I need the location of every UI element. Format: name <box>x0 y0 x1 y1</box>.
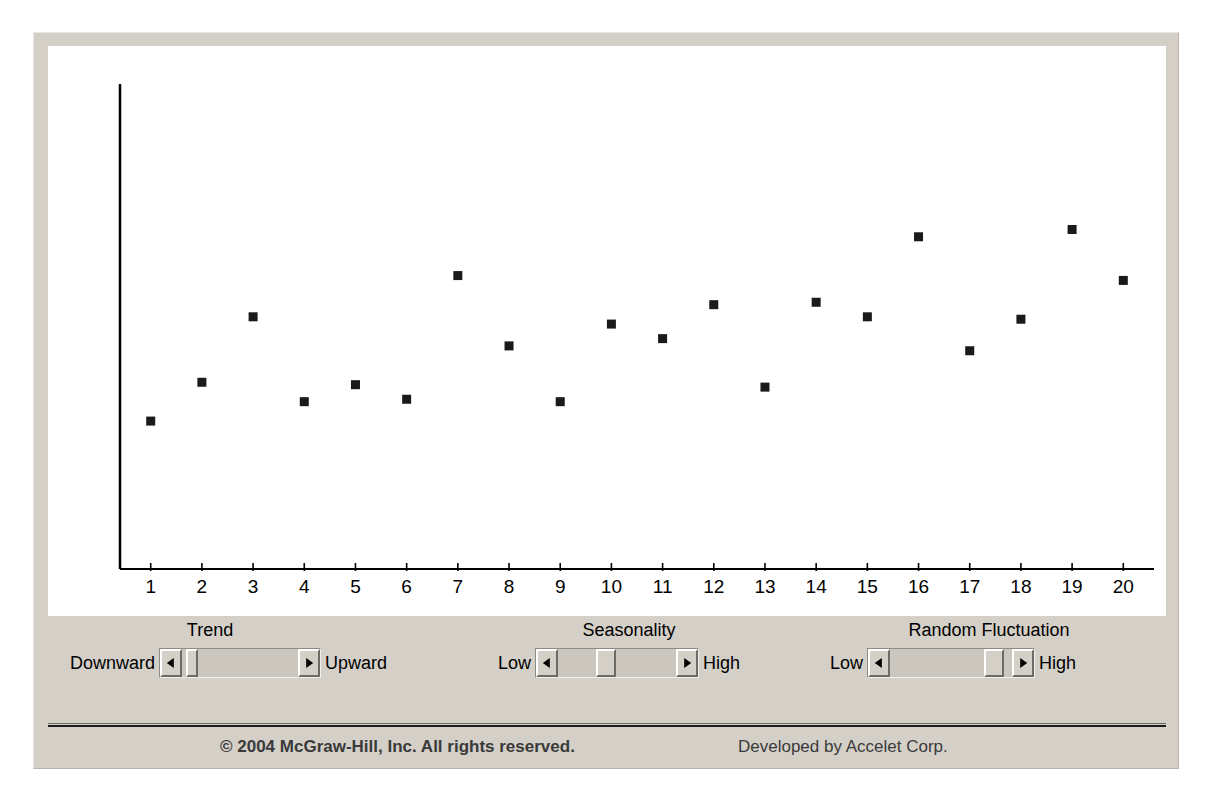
slider-row-random-fluctuation: Low High <box>830 648 1076 678</box>
x-tick-label: 6 <box>401 576 412 597</box>
slider-thumb-trend[interactable] <box>186 649 198 677</box>
slider-group-trend: Trend Downward Upward <box>70 616 460 688</box>
data-point-marker <box>709 300 718 309</box>
slider-title-random-fluctuation: Random Fluctuation <box>866 620 1112 641</box>
x-tick-label: 16 <box>908 576 929 597</box>
slider-track-random-fluctuation[interactable] <box>890 649 1012 677</box>
slider-group-seasonality: Seasonality Low High <box>498 616 758 688</box>
data-point-marker <box>658 334 667 343</box>
slider-trend[interactable] <box>159 648 321 678</box>
data-point-marker <box>607 320 616 329</box>
data-point-marker <box>965 346 974 355</box>
x-tick-label: 12 <box>703 576 724 597</box>
footer-copyright: © 2004 McGraw-Hill, Inc. All rights rese… <box>220 737 575 757</box>
slider-left-label-trend: Downward <box>70 654 155 672</box>
slider-right-label-seasonality: High <box>703 654 740 672</box>
applet-frame: 1234567891011121314151617181920 Trend Do… <box>33 32 1179 769</box>
triangle-left-icon-seasonality[interactable] <box>536 649 558 677</box>
triangle-right-icon-seasonality[interactable] <box>676 649 698 677</box>
x-tick-label: 8 <box>504 576 515 597</box>
x-tick-label: 3 <box>248 576 259 597</box>
x-tick-label: 17 <box>959 576 980 597</box>
triangle-left-icon-random-fluctuation[interactable] <box>868 649 890 677</box>
data-point-marker <box>300 397 309 406</box>
data-point-marker <box>556 397 565 406</box>
data-point-marker <box>1068 225 1077 234</box>
x-tick-label: 2 <box>197 576 208 597</box>
data-point-marker <box>146 417 155 426</box>
slider-random-fluctuation[interactable] <box>867 648 1035 678</box>
data-point-marker <box>402 395 411 404</box>
slider-thumb-random-fluctuation[interactable] <box>984 649 1004 677</box>
x-tick-label: 4 <box>299 576 310 597</box>
x-tick-label: 11 <box>653 576 673 597</box>
chart-data-points <box>146 225 1128 426</box>
footer-credit: Developed by Accelet Corp. <box>738 737 948 757</box>
data-point-marker <box>1016 315 1025 324</box>
x-tick-label: 14 <box>806 576 828 597</box>
data-point-marker <box>863 312 872 321</box>
footer-bar: © 2004 McGraw-Hill, Inc. All rights rese… <box>48 731 1166 767</box>
data-point-marker <box>914 232 923 241</box>
slider-left-label-random-fluctuation: Low <box>830 654 863 672</box>
x-tick-label: 15 <box>857 576 878 597</box>
triangle-right-icon-trend[interactable] <box>298 649 320 677</box>
slider-seasonality[interactable] <box>535 648 699 678</box>
slider-track-seasonality[interactable] <box>558 649 676 677</box>
x-tick-label: 19 <box>1062 576 1083 597</box>
x-tick-label: 1 <box>145 576 156 597</box>
x-tick-label: 18 <box>1010 576 1031 597</box>
x-tick-label: 20 <box>1113 576 1134 597</box>
data-point-marker <box>505 341 514 350</box>
footer-divider <box>48 723 1166 727</box>
slider-group-random-fluctuation: Random Fluctuation Low High <box>830 616 1130 688</box>
x-tick-label: 13 <box>754 576 775 597</box>
chart-x-tick-labels: 1234567891011121314151617181920 <box>145 576 1133 597</box>
slider-right-label-trend: Upward <box>325 654 387 672</box>
triangle-left-icon-trend[interactable] <box>160 649 182 677</box>
slider-title-trend: Trend <box>100 620 320 641</box>
slider-track-trend[interactable] <box>182 649 298 677</box>
data-point-marker <box>1119 276 1128 285</box>
data-point-marker <box>351 380 360 389</box>
x-tick-label: 5 <box>350 576 361 597</box>
x-tick-label: 9 <box>555 576 566 597</box>
triangle-right-icon-random-fluctuation[interactable] <box>1012 649 1034 677</box>
data-point-marker <box>197 378 206 387</box>
data-point-marker <box>760 383 769 392</box>
slider-row-seasonality: Low High <box>498 648 740 678</box>
data-point-marker <box>249 312 258 321</box>
chart-axes <box>120 84 1154 569</box>
chart-panel: 1234567891011121314151617181920 <box>48 46 1166 616</box>
x-tick-label: 7 <box>453 576 464 597</box>
slider-thumb-seasonality[interactable] <box>596 649 616 677</box>
slider-left-label-seasonality: Low <box>498 654 531 672</box>
data-point-marker <box>812 298 821 307</box>
controls-panel: Trend Downward Upward Seasonality Low <box>48 616 1166 714</box>
scatter-chart: 1234567891011121314151617181920 <box>48 46 1166 616</box>
data-point-marker <box>453 271 462 280</box>
x-tick-label: 10 <box>601 576 622 597</box>
slider-right-label-random-fluctuation: High <box>1039 654 1076 672</box>
slider-title-seasonality: Seasonality <box>522 620 736 641</box>
slider-row-trend: Downward Upward <box>70 648 387 678</box>
